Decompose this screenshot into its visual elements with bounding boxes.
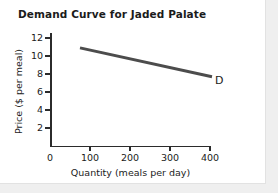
- y-axis-title: Price ($ per meal): [13, 32, 24, 152]
- demand-curve-line: [80, 48, 212, 77]
- chart-figure-card: Demand Curve for Jaded Palate 24681012 0…: [0, 0, 266, 184]
- plot-area: 24681012 0100200300400 D Quantity (meals…: [0, 0, 265, 183]
- x-axis-title: Quantity (meals per day): [50, 167, 211, 178]
- screenshot-root: Demand Curve for Jaded Palate 24681012 0…: [0, 0, 278, 193]
- demand-curve-svg: [0, 0, 265, 183]
- series-label-demand: D: [215, 75, 223, 86]
